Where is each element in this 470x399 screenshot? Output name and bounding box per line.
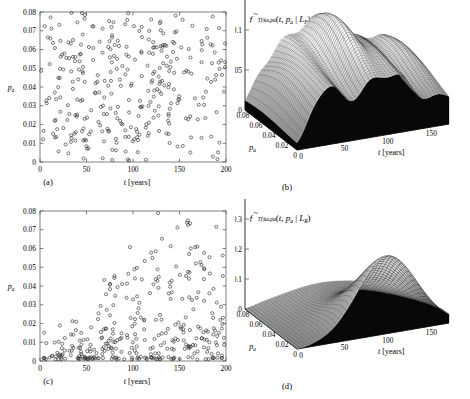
data-point	[157, 212, 160, 215]
data-point	[42, 138, 45, 141]
data-point	[199, 327, 202, 330]
data-point	[75, 320, 78, 323]
data-point	[131, 298, 134, 301]
data-point	[167, 119, 170, 122]
data-point	[188, 296, 191, 299]
data-point	[137, 114, 140, 117]
data-point	[138, 29, 141, 32]
data-point	[150, 251, 153, 254]
data-point	[172, 348, 175, 351]
data-point	[99, 124, 102, 127]
data-point	[157, 75, 160, 78]
data-point	[59, 39, 62, 42]
data-point	[101, 130, 104, 133]
data-point	[215, 111, 218, 114]
data-point	[70, 349, 73, 352]
panel-d-surface: ƒ~Tf|ka,pa(t, pa | LR)00.10.20.30.40.080…	[235, 199, 470, 399]
data-point	[136, 151, 139, 154]
data-point	[205, 27, 208, 30]
data-point	[89, 343, 92, 346]
data-point	[200, 39, 203, 42]
data-point	[210, 80, 213, 83]
data-point	[178, 95, 181, 98]
data-point	[220, 327, 223, 330]
data-point	[102, 140, 105, 143]
data-point	[133, 58, 136, 61]
data-point	[112, 21, 115, 24]
data-point	[144, 158, 147, 161]
data-point	[126, 282, 129, 285]
data-point	[119, 119, 122, 122]
data-point	[167, 114, 170, 117]
data-point	[109, 70, 112, 73]
data-point	[205, 338, 208, 341]
data-point	[151, 79, 154, 82]
data-point	[66, 104, 69, 107]
data-point	[43, 331, 46, 334]
data-point	[79, 52, 82, 55]
y-tick-label: 0.08	[23, 8, 36, 17]
data-point	[59, 96, 62, 99]
data-point	[124, 129, 127, 132]
scatter-points	[42, 212, 226, 362]
data-point	[131, 325, 134, 328]
data-point	[215, 301, 218, 304]
data-point	[64, 357, 67, 360]
y-tick-label: 0.07	[23, 225, 36, 234]
data-point	[208, 256, 211, 259]
data-point	[86, 350, 89, 353]
data-point	[54, 358, 57, 361]
data-point	[220, 73, 223, 76]
data-point	[135, 352, 138, 355]
x-axis-title: t [years]	[124, 178, 151, 187]
data-point	[154, 250, 157, 253]
data-point	[154, 318, 157, 321]
data-point	[214, 78, 217, 81]
data-point	[113, 274, 116, 277]
data-point	[196, 358, 199, 361]
data-point	[115, 141, 118, 144]
data-point	[136, 295, 139, 298]
data-point	[92, 58, 95, 61]
data-point	[200, 61, 203, 64]
data-point	[103, 79, 106, 82]
data-point	[127, 135, 130, 138]
y-tick-label: 0.08	[23, 207, 36, 216]
data-point	[156, 268, 159, 271]
data-point	[157, 114, 160, 117]
data-point	[172, 88, 175, 91]
data-point	[165, 64, 168, 67]
data-point	[136, 136, 139, 139]
data-point	[96, 318, 99, 321]
x-tick-label: 200	[220, 364, 231, 373]
data-point	[45, 342, 48, 345]
data-point	[53, 91, 56, 94]
scatter-points	[40, 11, 227, 162]
t-tick-label: 50	[341, 144, 349, 153]
data-point	[116, 105, 119, 108]
data-point	[211, 312, 214, 315]
data-point	[101, 157, 104, 160]
data-point	[80, 331, 83, 334]
data-point	[206, 350, 209, 353]
data-point	[163, 84, 166, 87]
data-point	[174, 323, 177, 326]
data-point	[197, 291, 200, 294]
data-point	[169, 245, 172, 248]
data-point	[119, 84, 122, 87]
data-point	[210, 352, 213, 355]
data-point	[129, 126, 132, 129]
data-point	[157, 129, 160, 132]
y-tick-label: 0.04	[23, 282, 36, 291]
data-point	[218, 67, 221, 70]
data-point	[221, 323, 224, 326]
panel-b-svg: ƒ~Tf|ka,pa(t, pa | LF)00.050.10.150.080.…	[235, 0, 470, 199]
x-tick-label: 50	[83, 165, 91, 174]
data-point	[116, 286, 119, 289]
data-point	[113, 43, 116, 46]
data-point	[168, 107, 171, 110]
data-point	[68, 113, 71, 116]
data-point	[148, 51, 151, 54]
y-tick-label: 0.03	[23, 101, 36, 110]
data-point	[208, 272, 211, 275]
